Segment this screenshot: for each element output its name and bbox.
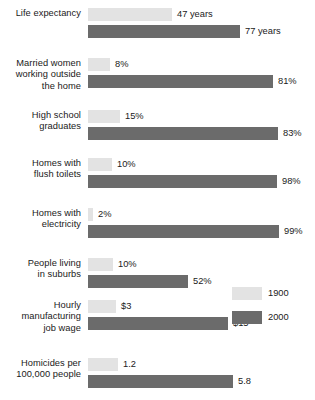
bar-value-1900: 10% bbox=[112, 158, 136, 171]
legend-swatch-2000 bbox=[232, 311, 262, 324]
row-label: Homes with flush toilets bbox=[0, 158, 85, 181]
row-label: Homes with electricity bbox=[0, 208, 85, 231]
bar-2000 bbox=[88, 375, 233, 388]
row-label: People living in suburbs bbox=[0, 258, 85, 281]
row-bars: 47 years77 years bbox=[85, 8, 315, 38]
bar-value-2000: 81% bbox=[273, 75, 297, 88]
chart-row: People living in suburbs10%52% bbox=[0, 258, 315, 288]
bar-value-1900: $3 bbox=[116, 300, 131, 313]
bar-2000 bbox=[88, 75, 273, 88]
bar-line-2000: 5.8 bbox=[88, 375, 315, 388]
row-bars: 10%52% bbox=[85, 258, 315, 288]
bar-line-1900: 10% bbox=[88, 258, 315, 271]
bar-value-1900: 15% bbox=[120, 110, 144, 123]
bar-1900 bbox=[88, 58, 110, 71]
bar-line-2000: 99% bbox=[88, 225, 315, 238]
bar-2000 bbox=[88, 127, 278, 140]
bar-2000 bbox=[88, 225, 279, 238]
bar-1900 bbox=[88, 300, 116, 313]
bar-1900 bbox=[88, 258, 113, 271]
bar-value-2000: 99% bbox=[279, 225, 303, 238]
bar-value-2000: 83% bbox=[278, 127, 302, 140]
legend-label-2000: 2000 bbox=[262, 311, 289, 324]
chart-row: Homes with electricity2%99% bbox=[0, 208, 315, 238]
row-bars: 1.25.8 bbox=[85, 358, 315, 388]
bar-value-1900: 1.2 bbox=[118, 358, 136, 371]
bar-line-2000: 98% bbox=[88, 175, 315, 188]
bar-2000 bbox=[88, 275, 188, 288]
row-label: Homicides per 100,000 people bbox=[0, 358, 85, 381]
bar-value-1900: 10% bbox=[113, 258, 137, 271]
chart-row: Homes with flush toilets10%98% bbox=[0, 158, 315, 188]
legend-swatch-1900 bbox=[232, 287, 262, 300]
chart-row: High school graduates15%83% bbox=[0, 110, 315, 140]
bar-line-2000: 83% bbox=[88, 127, 315, 140]
bar-1900 bbox=[88, 158, 112, 171]
bar-value-2000: 77 years bbox=[240, 25, 281, 38]
row-label: Hourly manufacturing job wage bbox=[0, 300, 85, 334]
bar-value-2000: 5.8 bbox=[233, 375, 251, 388]
legend-item-1900: 1900 bbox=[232, 287, 307, 300]
row-bars: 8%81% bbox=[85, 58, 315, 88]
row-label: Married women working outside the home bbox=[0, 58, 85, 92]
bar-1900 bbox=[88, 358, 118, 371]
chart-row: Married women working outside the home8%… bbox=[0, 58, 315, 92]
bar-line-2000: 77 years bbox=[88, 25, 315, 38]
comparison-bar-chart: Life expectancy47 years77 yearsMarried w… bbox=[0, 0, 315, 400]
chart-row: Homicides per 100,000 people1.25.8 bbox=[0, 358, 315, 388]
bar-line-1900: 10% bbox=[88, 158, 315, 171]
bar-line-1900: 1.2 bbox=[88, 358, 315, 371]
bar-value-1900: 47 years bbox=[172, 8, 213, 21]
bar-2000 bbox=[88, 317, 228, 330]
chart-row: Life expectancy47 years77 years bbox=[0, 8, 315, 38]
bar-line-2000: 81% bbox=[88, 75, 315, 88]
chart-legend: 1900 2000 bbox=[232, 287, 307, 324]
legend-item-2000: 2000 bbox=[232, 311, 307, 324]
bar-value-1900: 8% bbox=[110, 58, 128, 71]
bar-2000 bbox=[88, 25, 240, 38]
row-label: High school graduates bbox=[0, 110, 85, 133]
bar-line-1900: 2% bbox=[88, 208, 315, 221]
bar-1900 bbox=[88, 110, 120, 123]
bar-line-1900: 8% bbox=[88, 58, 315, 71]
bar-line-1900: 47 years bbox=[88, 8, 315, 21]
legend-label-1900: 1900 bbox=[262, 287, 289, 300]
row-label: Life expectancy bbox=[0, 8, 85, 19]
bar-line-1900: 15% bbox=[88, 110, 315, 123]
row-bars: 10%98% bbox=[85, 158, 315, 188]
row-bars: 15%83% bbox=[85, 110, 315, 140]
row-bars: 2%99% bbox=[85, 208, 315, 238]
bar-value-2000: 98% bbox=[277, 175, 301, 188]
bar-value-1900: 2% bbox=[93, 208, 111, 221]
bar-2000 bbox=[88, 175, 277, 188]
bar-1900 bbox=[88, 8, 172, 21]
bar-value-2000: 52% bbox=[188, 275, 212, 288]
